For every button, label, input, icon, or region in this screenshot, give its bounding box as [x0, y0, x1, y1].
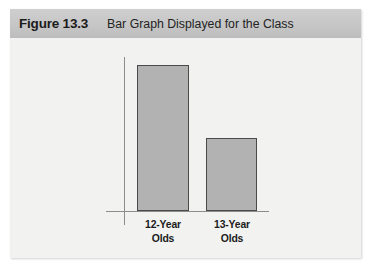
x-tick-label-line1: 13-Year: [214, 219, 250, 230]
figure-container: Figure 13.3 Bar Graph Displayed for the …: [10, 9, 361, 258]
bar-chart: 12-Year Olds 13-Year Olds: [10, 38, 361, 258]
x-tick-label-13-year-olds: 13-Year Olds: [189, 218, 275, 245]
figure-number: Figure 13.3: [19, 16, 88, 31]
figure-header-band: Figure 13.3 Bar Graph Displayed for the …: [10, 9, 361, 38]
x-axis-line: [106, 211, 269, 212]
figure-title: Bar Graph Displayed for the Class: [107, 17, 294, 31]
y-axis-line: [124, 57, 125, 225]
x-tick-label-line2: Olds: [189, 232, 275, 246]
bar-12-year-olds: [137, 65, 189, 211]
bar-13-year-olds: [206, 138, 257, 211]
x-tick-label-line1: 12-Year: [145, 219, 181, 230]
